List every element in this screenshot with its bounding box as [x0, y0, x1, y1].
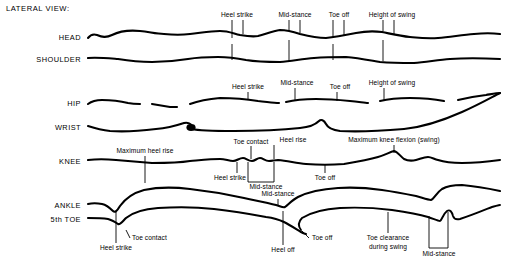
trace-wrist — [88, 123, 192, 132]
annotation-hip-heel-strike: Heel strike — [232, 83, 264, 90]
annotation-toe-clearance-line2: during swing — [369, 243, 407, 251]
gait-diagram-figure: LATERAL VIEW: HEAD SHOULDER HIP WRIST KN… — [0, 0, 507, 260]
annotation-head-mid-stance: Mid-stance — [278, 11, 311, 18]
trace-5th-toe — [88, 207, 306, 234]
annotation-head-height-of-swing: Height of swing — [369, 11, 416, 19]
tick-group-head-shoulder — [232, 20, 394, 61]
annotation-knee-heel-rise: Heel rise — [280, 136, 307, 143]
annotation-ankle-toe-contact: Toe contact — [132, 234, 167, 241]
annotation-hip-toe-off: Toe off — [330, 83, 350, 90]
wrist-crossover-blob — [186, 124, 195, 131]
annotation-ankle-heel-off: Heel off — [271, 246, 294, 253]
trace-shoulder — [88, 57, 500, 63]
row-label-hip: HIP — [67, 99, 81, 108]
row-label-wrist: WRIST — [55, 123, 81, 132]
gait-diagram-canvas: LATERAL VIEW: HEAD SHOULDER HIP WRIST KN… — [0, 0, 507, 260]
trace-hip — [88, 93, 500, 107]
tick-ankle-toe-contact — [126, 230, 130, 238]
trace-head — [88, 30, 500, 38]
annotation-ankle-mid-stance-right: Mid-stance — [422, 250, 455, 257]
annotation-head-heel-strike: Heel strike — [221, 11, 253, 18]
annotation-ankle-mid-stance-left: Mid-stance — [261, 190, 294, 197]
annotation-head-toe-off: Toe off — [329, 11, 349, 18]
tick-group-knee-above — [251, 145, 394, 159]
annotation-hip-height-of-swing: Height of swing — [369, 79, 416, 87]
annotation-knee-toe-off: Toe off — [315, 174, 335, 181]
row-label-shoulder: SHOULDER — [36, 55, 81, 64]
annotation-ankle-toe-off: Toe off — [312, 234, 332, 241]
row-label-ankle: ANKLE — [55, 201, 82, 210]
annotation-toe-clearance-line1: Toe clearance — [367, 234, 410, 241]
annotation-knee-max-flexion: Maximum knee flexion (swing) — [348, 136, 439, 144]
annotation-knee-maximum-heel-rise: Maximum heel rise — [116, 147, 173, 154]
bracket-knee-mid-stance — [248, 162, 274, 182]
annotation-hip-mid-stance: Mid-stance — [280, 79, 313, 86]
annotation-knee-toe-contact: Toe contact — [234, 138, 269, 145]
annotation-knee-mid-stance: Mid-stance — [249, 183, 282, 190]
tick-ankle-toe-off — [302, 231, 309, 238]
trace-5th-toe-return — [299, 205, 500, 230]
row-label-toe: 5th TOE — [51, 215, 81, 224]
row-label-knee: KNEE — [59, 157, 81, 166]
annotation-knee-heel-strike: Heel strike — [214, 174, 246, 181]
trace-ankle — [88, 185, 500, 212]
row-label-head: HEAD — [59, 33, 81, 42]
figure-title: LATERAL VIEW: — [6, 4, 70, 13]
annotation-ankle-heel-strike: Heel strike — [100, 244, 132, 251]
